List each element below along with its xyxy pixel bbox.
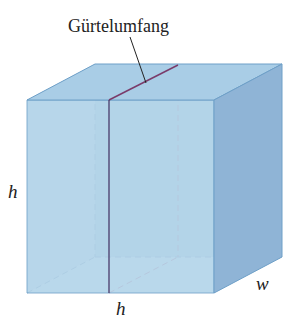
width-label: w xyxy=(256,273,269,294)
height-label-left: h xyxy=(8,181,18,202)
front-face xyxy=(27,100,214,293)
box-diagram: Gürtelumfang h h w xyxy=(0,0,298,324)
side-face xyxy=(214,64,282,293)
girth-label: Gürtelumfang xyxy=(68,16,169,36)
height-label-bottom: h xyxy=(116,298,126,319)
